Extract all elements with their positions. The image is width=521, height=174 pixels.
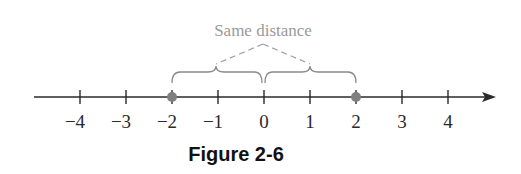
tick-label: −3 xyxy=(111,111,131,132)
number-line-figure: Same distance −4 −3 −2 −1 0 1 2 3 4 xyxy=(0,0,521,174)
distance-braces xyxy=(172,66,356,83)
left-brace xyxy=(172,66,262,83)
tick-label: 4 xyxy=(443,111,453,132)
tick-label: −1 xyxy=(203,111,223,132)
tick-label: −4 xyxy=(65,111,86,132)
same-distance-label: Same distance xyxy=(214,21,312,40)
tick-label: 2 xyxy=(351,111,361,132)
figure-caption: Figure 2-6 xyxy=(188,143,284,165)
point-pos-2 xyxy=(351,92,361,102)
dashed-connectors xyxy=(216,44,310,64)
tick-label: 1 xyxy=(305,111,315,132)
tick-label: 3 xyxy=(397,111,407,132)
tick-label: −2 xyxy=(157,111,177,132)
right-brace xyxy=(265,66,356,83)
point-neg-2 xyxy=(167,92,177,102)
tick-label: 0 xyxy=(259,111,269,132)
